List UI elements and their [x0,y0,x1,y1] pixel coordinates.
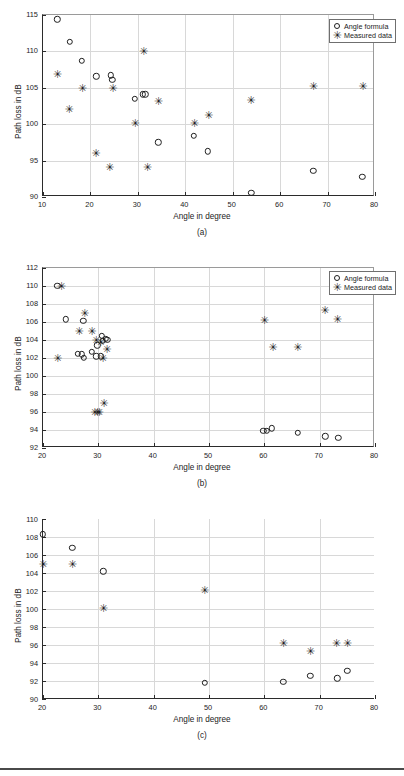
x-tick [90,192,91,196]
x-tick-label: 60 [259,703,267,712]
y-tick [42,519,46,520]
data-point-measured-data: ✳ [279,639,288,648]
data-point-angle-formula [307,672,313,678]
x-tick [43,443,44,447]
y-tick [42,304,46,305]
x-axis-title-a: Angle in degree [0,212,404,221]
data-point-measured-data: ✳ [78,83,87,92]
legend-label-angle-formula: Angle formula [344,274,388,283]
gridline-horizontal [43,430,373,431]
x-tick [375,695,376,699]
y-tick [42,161,46,162]
panel-a: ✳✳✳✳✳✳✳✳✳✳✳✳✳✳✳1020304050607080909510010… [0,0,404,255]
data-point-angle-formula [66,39,72,45]
data-point-measured-data: ✳ [332,639,341,648]
y-tick [42,51,46,52]
gridline-vertical [280,15,281,195]
gridline-horizontal [43,322,373,323]
y-tick-label: 108 [18,533,38,542]
x-tick-label: 50 [228,200,236,209]
gridline-horizontal [43,286,373,287]
data-point-angle-formula [79,58,85,64]
y-tick-label: 95 [18,155,38,164]
asterisk-marker-icon: ✳ [333,31,342,40]
gridline-horizontal [43,376,373,377]
x-tick-label: 40 [149,451,157,460]
x-tick [185,192,186,196]
x-tick-label: 60 [275,200,283,209]
data-point-angle-formula [69,545,75,551]
data-point-measured-data: ✳ [91,149,100,158]
data-point-angle-formula [155,139,161,145]
y-tick [42,340,46,341]
y-tick-label: 96 [18,407,38,416]
gridline-horizontal [43,627,374,628]
gridline-vertical [154,268,155,446]
y-tick [42,124,46,125]
y-tick [42,699,46,700]
gridline-horizontal [43,394,373,395]
legend-label-measured-data: Measured data [344,283,392,292]
x-tick-label: 30 [93,703,101,712]
y-tick [42,555,46,556]
y-tick [42,430,46,431]
data-point-angle-formula [142,91,148,97]
data-point-measured-data: ✳ [53,354,62,363]
y-tick [42,88,46,89]
y-tick-label: 104 [18,569,38,578]
data-point-measured-data: ✳ [260,316,269,325]
y-tick [42,197,46,198]
y-tick-label: 92 [18,443,38,452]
y-tick-label: 106 [18,551,38,560]
x-tick [43,192,44,196]
x-tick-label: 20 [38,703,46,712]
x-tick-label: 80 [370,451,378,460]
data-point-measured-data: ✳ [154,96,163,105]
data-point-angle-formula [81,355,87,361]
x-tick-label: 10 [38,200,46,209]
gridline-horizontal [43,88,373,89]
plot-area-a: ✳✳✳✳✳✳✳✳✳✳✳✳✳✳✳ [42,14,374,196]
data-point-angle-formula [131,96,137,102]
data-point-angle-formula [295,429,301,435]
gridline-horizontal [43,681,374,682]
data-point-measured-data: ✳ [57,282,66,291]
data-point-measured-data: ✳ [139,46,148,55]
x-tick [209,443,210,447]
data-point-measured-data: ✳ [333,315,342,324]
y-tick [42,286,46,287]
data-point-measured-data: ✳ [98,354,107,363]
x-tick-label: 20 [38,451,46,460]
data-point-angle-formula [310,168,316,174]
gridline-horizontal [43,51,373,52]
y-tick-label: 92 [18,677,38,686]
x-tick-label: 70 [322,200,330,209]
panel-caption-c: (c) [0,731,404,740]
gridline-vertical [138,15,139,195]
data-point-angle-formula [359,173,365,179]
data-point-angle-formula [322,433,328,439]
legend-label-measured-data: Measured data [344,31,392,40]
gridline-horizontal [43,124,373,125]
x-tick [328,192,329,196]
y-axis-title-a: Path loss in dB [14,84,23,139]
x-tick-label: 70 [315,451,323,460]
data-point-measured-data: ✳ [343,639,352,648]
data-point-angle-formula [201,680,207,686]
data-point-measured-data: ✳ [74,327,83,336]
y-tick [42,394,46,395]
gridline-vertical [90,15,91,195]
legend-b: Angle formula✳Measured data [329,271,396,295]
x-tick [280,192,281,196]
x-tick [320,443,321,447]
x-axis-title-c: Angle in degree [0,715,404,724]
y-tick-label: 110 [18,46,38,55]
y-axis-title-c: Path loss in dB [14,588,23,643]
gridline-vertical [209,268,210,446]
legend-item-measured-data: ✳Measured data [333,283,392,292]
gridline-horizontal [43,161,373,162]
y-tick [42,268,46,269]
x-tick-label: 80 [370,703,378,712]
data-point-angle-formula [248,189,254,195]
x-tick [138,192,139,196]
